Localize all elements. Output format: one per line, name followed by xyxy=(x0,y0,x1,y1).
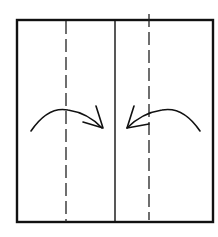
fold-diagram xyxy=(0,0,218,237)
